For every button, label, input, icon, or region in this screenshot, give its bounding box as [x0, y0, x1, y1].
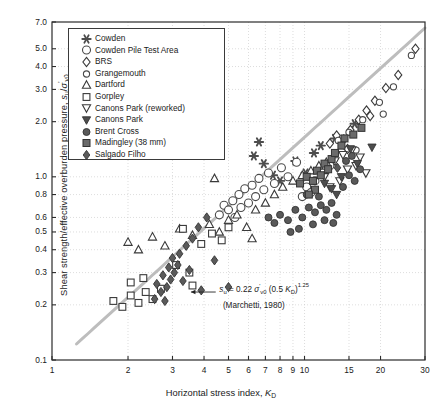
- legend-item-brent-cross[interactable]: Brent Cross: [78, 126, 224, 138]
- data-point: [124, 238, 132, 246]
- data-point: [198, 241, 205, 248]
- legend-item-label: BRS: [95, 56, 112, 68]
- legend-marker-icon: [78, 68, 95, 80]
- legend: CowdenCowden Pile Test AreaBRSGrangemout…: [68, 28, 225, 160]
- annotation-equation: su = 0.22 σ'v0 (0.5 KD)1.25: [219, 285, 309, 294]
- legend-item-dartford[interactable]: Dartford: [78, 79, 224, 91]
- legend-item-cowden-pile-test-area[interactable]: Cowden Pile Test Area: [78, 45, 224, 57]
- y-tick-label: 2.0: [25, 116, 47, 126]
- data-point: [171, 268, 178, 277]
- data-point: [211, 256, 218, 265]
- data-point: [229, 197, 237, 205]
- data-point: [252, 193, 260, 201]
- legend-marker-icon: [78, 45, 95, 57]
- legend-marker-icon: [78, 137, 95, 149]
- legend-item-label: Cowden Pile Test Area: [95, 45, 178, 57]
- data-point: [348, 152, 355, 159]
- data-point: [119, 303, 126, 310]
- data-point: [255, 138, 263, 145]
- data-point: [237, 203, 245, 211]
- legend-item-cowden[interactable]: Cowden: [78, 33, 224, 45]
- data-point: [333, 191, 341, 199]
- annotation-citation: (Marchetti, 1980): [223, 301, 285, 310]
- data-point: [351, 177, 358, 184]
- x-tick-label: 2: [119, 365, 137, 375]
- data-point: [310, 149, 318, 156]
- data-point: [260, 186, 268, 194]
- legend-marker-icon: [78, 79, 95, 91]
- data-point: [299, 214, 306, 221]
- data-point: [315, 193, 322, 200]
- data-point: [180, 276, 187, 285]
- legend-item-salgado-filho[interactable]: Salgado Filho: [78, 149, 224, 161]
- data-point: [148, 233, 156, 241]
- data-point: [167, 275, 174, 284]
- data-point: [297, 180, 304, 187]
- legend-item-label: Canons Park: [95, 114, 143, 126]
- data-point: [293, 158, 301, 166]
- data-point: [277, 211, 284, 218]
- data-point: [83, 46, 91, 54]
- y-tick-label: 0.2: [25, 299, 47, 309]
- legend-marker-icon: [78, 91, 95, 103]
- legend-item-canons-park-reworked[interactable]: Canons Park (reworked): [78, 103, 224, 115]
- data-point: [360, 117, 366, 123]
- data-point: [241, 185, 249, 193]
- legend-item-label: Cowden: [95, 33, 125, 45]
- y-tick-label: 4.0: [25, 61, 47, 71]
- data-point: [358, 124, 365, 131]
- legend-item-madingley-38-mm[interactable]: Madingley (38 mm): [78, 137, 224, 149]
- legend-item-brs[interactable]: BRS: [78, 56, 224, 68]
- data-point: [270, 190, 278, 198]
- data-point: [82, 117, 90, 125]
- x-tick-label: 20: [372, 365, 390, 375]
- data-point: [326, 139, 333, 148]
- legend-marker-icon: [78, 114, 95, 126]
- x-tick-label: 15: [340, 365, 358, 375]
- data-point: [376, 99, 382, 105]
- legend-item-canons-park[interactable]: Canons Park: [78, 114, 224, 126]
- data-point: [328, 199, 335, 206]
- data-point: [198, 286, 205, 295]
- data-point: [250, 152, 258, 159]
- data-point: [209, 230, 216, 237]
- x-tick-label: 30: [416, 365, 434, 375]
- data-point: [271, 219, 278, 226]
- data-point: [357, 166, 364, 173]
- y-tick-label: 0.4: [25, 244, 47, 254]
- x-tick-label: 3: [163, 365, 181, 375]
- data-point: [317, 142, 325, 149]
- data-point: [160, 271, 167, 280]
- data-point: [317, 172, 324, 179]
- data-point: [180, 225, 187, 232]
- legend-item-label: Canons Park (reworked): [95, 103, 185, 115]
- data-point: [110, 298, 117, 305]
- legend-item-label: Grangemouth: [95, 68, 146, 80]
- data-point: [142, 289, 149, 296]
- data-point: [341, 135, 348, 142]
- data-point: [189, 282, 196, 289]
- legend-item-grangemouth[interactable]: Grangemouth: [78, 68, 224, 80]
- y-tick-label: 0.1: [25, 355, 47, 365]
- data-point: [83, 140, 90, 147]
- legend-item-label: Madingley (38 mm): [95, 137, 166, 149]
- data-point: [127, 292, 134, 299]
- x-tick-label: 5: [220, 365, 238, 375]
- data-point: [333, 211, 340, 218]
- data-point: [248, 234, 256, 242]
- y-tick-label: 5.0: [25, 43, 47, 53]
- data-point: [270, 179, 278, 187]
- x-tick-label: 4: [195, 365, 213, 375]
- x-axis-title-text: Horizontal stress index, KD: [166, 388, 276, 398]
- data-point: [248, 181, 256, 189]
- data-point: [135, 299, 142, 306]
- data-point: [339, 183, 346, 190]
- data-point: [83, 57, 90, 66]
- legend-item-gorpley[interactable]: Gorpley: [78, 91, 224, 103]
- data-point: [345, 172, 352, 179]
- y-tick-label: 7.0: [25, 17, 47, 27]
- data-point: [380, 111, 386, 117]
- data-point: [215, 228, 223, 236]
- data-point: [161, 242, 169, 250]
- data-point: [408, 52, 414, 58]
